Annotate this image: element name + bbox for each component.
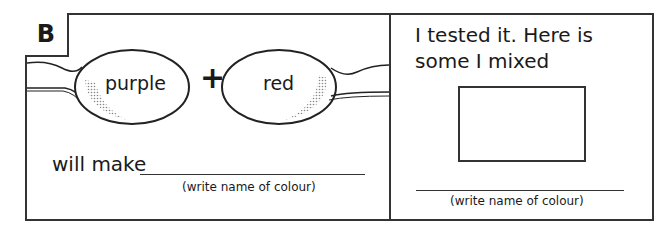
answer-hint-left: (write name of colour): [182, 180, 316, 194]
answer-line-left[interactable]: [140, 174, 365, 175]
plus-operator: +: [200, 60, 225, 95]
section-label: B: [37, 20, 55, 48]
spoon-right-icon: [222, 50, 389, 124]
spoon1-label: purple: [105, 72, 166, 94]
spoon2-label: red: [263, 72, 294, 94]
answer-line-right[interactable]: [416, 190, 624, 191]
color-swatch-box[interactable]: [458, 86, 586, 162]
test-prompt: I tested it. Here is some I mixed: [415, 22, 635, 74]
answer-hint-right: (write name of colour): [450, 194, 584, 208]
will-make-prompt: will make: [52, 152, 146, 176]
section-label-box: B: [25, 13, 69, 57]
panel-divider: [389, 13, 391, 219]
